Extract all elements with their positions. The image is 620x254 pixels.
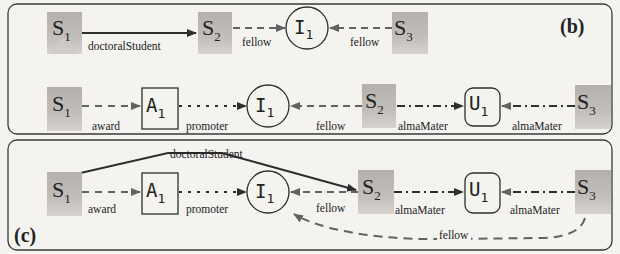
c-node-s3: S3 [575, 170, 611, 214]
panel-b: (b) S1 doctoralStudent S2 fellow [8, 4, 612, 134]
b1-node-s1: S1 [47, 12, 82, 54]
svg-text:A1: A1 [146, 179, 165, 206]
c-label-promoter: promoter [186, 203, 228, 216]
b2-node-a1: A1 [142, 88, 178, 129]
c-label-fellow-s2: fellow [316, 202, 346, 214]
b1-node-s2: S2 [198, 12, 232, 54]
panel-b-label: (b) [560, 15, 584, 38]
b2-node-s3: S3 [575, 85, 611, 129]
svg-text:U1: U1 [469, 92, 488, 119]
c-label-fellow-s3: fellow [439, 229, 469, 241]
c-label-almamater-s2: almaMater [395, 204, 445, 216]
b2-node-i1: I1 [247, 85, 289, 127]
c-node-a1: A1 [142, 173, 178, 214]
svg-text:A1: A1 [146, 94, 165, 121]
svg-text:I1: I1 [255, 180, 274, 206]
svg-text:U1: U1 [469, 178, 488, 205]
b2-label-almamater-s2: almaMater [398, 120, 448, 132]
b1-label-fellow-s2: fellow [242, 36, 272, 48]
b2-label-promoter: promoter [186, 120, 228, 133]
c-label-almamater-s3: almaMater [510, 204, 560, 216]
b-row1: S1 doctoralStudent S2 fellow I1 fellow [47, 7, 428, 54]
c-node-u1: U1 [465, 173, 500, 213]
b1-node-s3: S3 [392, 12, 428, 54]
c-label-doctoralstudent: doctoralStudent [170, 148, 244, 160]
b1-label-doctoralstudent: doctoralStudent [88, 40, 162, 52]
diagram-canvas: (b) S1 doctoralStudent S2 fellow [0, 0, 620, 254]
c-node-i1: I1 [247, 171, 289, 213]
panel-c: (c) doctoralStudent S1 award A1 promoter… [8, 140, 612, 250]
c-node-s1: S1 [47, 172, 82, 216]
c-label-award: award [88, 203, 116, 215]
b1-node-i1: I1 [286, 7, 328, 49]
svg-text:I1: I1 [294, 16, 313, 42]
b2-label-fellow: fellow [316, 120, 346, 132]
b2-label-almamater-s3: almaMater [512, 120, 562, 132]
b2-node-s2: S2 [362, 84, 396, 128]
b2-node-s1: S1 [47, 87, 82, 131]
b1-label-fellow-s3: fellow [350, 36, 380, 48]
b-row2: S1 award A1 promoter I1 fellow [47, 84, 611, 133]
c-node-s2: S2 [358, 170, 394, 214]
svg-text:I1: I1 [255, 94, 274, 120]
b2-label-award: award [92, 120, 120, 132]
b2-node-u1: U1 [465, 88, 500, 126]
panel-c-label: (c) [14, 224, 36, 247]
